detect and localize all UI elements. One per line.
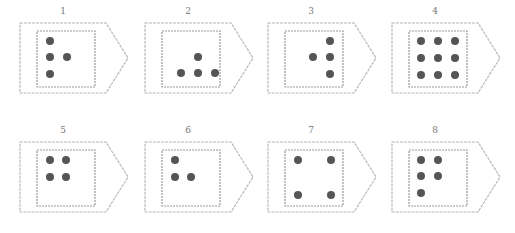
- dot: [46, 173, 54, 181]
- dot: [294, 191, 302, 199]
- option-card-4: 4: [390, 6, 510, 111]
- dot: [417, 156, 425, 164]
- dot: [434, 37, 442, 45]
- option-label: 6: [143, 125, 233, 135]
- dot: [171, 173, 179, 181]
- pentagon-shape: [143, 20, 258, 100]
- option-label: 5: [18, 125, 108, 135]
- option-card-6: 6: [143, 125, 263, 230]
- dot: [294, 156, 302, 164]
- dot: [434, 156, 442, 164]
- dot: [417, 37, 425, 45]
- dot: [326, 53, 334, 61]
- dot: [417, 71, 425, 79]
- option-label: 8: [390, 125, 480, 135]
- option-label: 4: [390, 6, 480, 16]
- dot: [177, 69, 185, 77]
- dot: [451, 54, 459, 62]
- dot: [451, 71, 459, 79]
- dot: [46, 37, 54, 45]
- outer-pentagon: [268, 23, 376, 93]
- inner-square: [162, 31, 220, 87]
- outer-pentagon: [392, 142, 500, 212]
- dot: [417, 54, 425, 62]
- outer-pentagon: [268, 142, 376, 212]
- option-label: 1: [18, 6, 108, 16]
- dot: [63, 53, 71, 61]
- dot: [434, 172, 442, 180]
- pentagon-shape: [266, 20, 381, 100]
- pentagon-shape: [18, 20, 133, 100]
- outer-pentagon: [20, 23, 128, 93]
- option-card-8: 8: [390, 125, 510, 230]
- dot: [171, 156, 179, 164]
- option-label: 2: [143, 6, 233, 16]
- option-card-3: 3: [266, 6, 386, 111]
- pentagon-shape: [18, 139, 133, 219]
- dot: [417, 172, 425, 180]
- dot: [451, 37, 459, 45]
- dot: [309, 53, 317, 61]
- pentagon-shape: [390, 20, 505, 100]
- pentagon-shape: [390, 139, 505, 219]
- dot: [187, 173, 195, 181]
- dot: [46, 70, 54, 78]
- option-label: 3: [266, 6, 356, 16]
- pentagon-shape: [143, 139, 258, 219]
- dot: [211, 69, 219, 77]
- option-label: 7: [266, 125, 356, 135]
- dot: [62, 173, 70, 181]
- dot: [327, 191, 335, 199]
- dot: [327, 156, 335, 164]
- dot: [46, 156, 54, 164]
- option-card-1: 1: [18, 6, 138, 111]
- dot: [434, 71, 442, 79]
- dot: [417, 189, 425, 197]
- outer-pentagon: [145, 142, 253, 212]
- outer-pentagon: [20, 142, 128, 212]
- option-card-7: 7: [266, 125, 386, 230]
- dot: [194, 53, 202, 61]
- pentagon-shape: [266, 139, 381, 219]
- option-card-5: 5: [18, 125, 138, 230]
- dot: [46, 53, 54, 61]
- outer-pentagon: [392, 23, 500, 93]
- dot: [194, 69, 202, 77]
- dot: [62, 156, 70, 164]
- option-card-2: 2: [143, 6, 263, 111]
- dot: [434, 54, 442, 62]
- dot: [326, 70, 334, 78]
- dot: [326, 37, 334, 45]
